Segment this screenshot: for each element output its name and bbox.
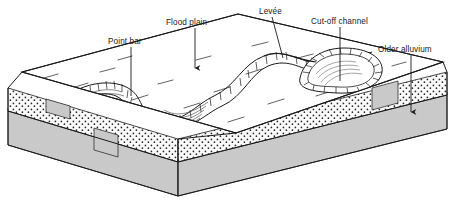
label-levee: Levée xyxy=(259,7,282,16)
label-cut-off-channel: Cut-off channel xyxy=(311,17,368,26)
label-older-alluvium: Older alluvium xyxy=(378,45,432,54)
block-body xyxy=(8,14,447,196)
block-diagram-figure: Point bar Flood plain Levée Cut-off chan… xyxy=(0,0,453,208)
label-point-bar: Point bar xyxy=(108,37,142,46)
label-flood-plain: Flood plain xyxy=(166,18,208,27)
